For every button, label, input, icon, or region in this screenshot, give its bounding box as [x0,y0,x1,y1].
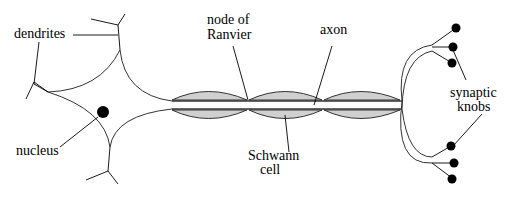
leader-lines [34,35,482,152]
axon-terminal [401,28,456,178]
schwann-cells [172,92,402,119]
label-synaptic-line2: knobs [457,99,490,114]
label-schwann-line1: Schwann [248,148,299,163]
axon-tube [172,101,402,109]
label-synaptic-line1: synaptic [450,85,497,100]
label-node-of-ranvier-line1: node of [207,12,250,27]
label-node-of-ranvier-line2: Ranvier [207,27,252,42]
label-nucleus: nucleus [16,143,59,158]
cell-body [48,50,172,147]
label-dendrites: dendrites [14,26,65,41]
label-axon: axon [320,22,347,37]
neuron-diagram: dendrites nucleus node of Ranvier axon S… [0,0,510,198]
nucleus-dot [97,106,109,118]
label-schwann-line2: cell [260,162,280,177]
